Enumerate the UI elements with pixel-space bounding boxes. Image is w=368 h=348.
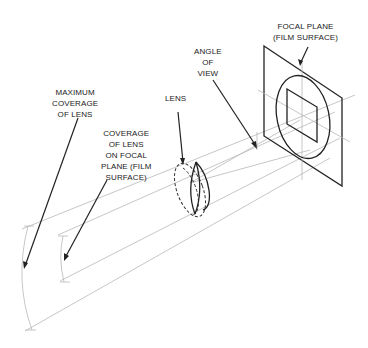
lens-label: LENS	[165, 93, 186, 104]
focal-plane-label-line-2: (FILM SURFACE)	[273, 32, 338, 43]
coverage-on-focal-plane-label-line-1: COVERAGE	[101, 128, 151, 139]
maximum-coverage-arc	[22, 226, 32, 330]
maximum-coverage-label-line-1: MAXIMUM	[52, 87, 98, 98]
maximum-coverage-label-line-3: OF LENS	[52, 109, 98, 120]
angle-of-view-label-line-2: OF	[194, 57, 222, 68]
coverage-on-focal-plane-label-line-4: PLANE (FILM	[101, 161, 151, 172]
angle-of-view-label-line-3: VIEW	[194, 68, 222, 79]
maximum-coverage-label: MAXIMUM COVERAGE OF LENS	[52, 87, 98, 120]
focal-plane-label: FOCAL PLANE (FILM SURFACE)	[273, 21, 338, 43]
focal-plane-label-line-1: FOCAL PLANE	[273, 21, 338, 32]
coverage-on-focal-plane-label-line-2: OF LENS	[101, 139, 151, 150]
lens-label-line-1: LENS	[165, 93, 186, 104]
image-circle	[269, 71, 337, 164]
angle-of-view-label: ANGLE OF VIEW	[194, 46, 222, 79]
focal-plane	[258, 46, 350, 186]
light-rays	[22, 95, 355, 331]
coverage-on-focal-plane-label-line-3: ON FOCAL	[101, 150, 151, 161]
lens-element	[168, 159, 212, 221]
angle-of-view-label-line-1: ANGLE	[194, 46, 222, 57]
coverage-on-focal-plane-label-line-5: SURFACE)	[101, 172, 151, 183]
lens-coverage-diagram	[0, 0, 368, 348]
coverage-on-focal-plane-label: COVERAGE OF LENS ON FOCAL PLANE (FILM SU…	[101, 128, 151, 183]
maximum-coverage-label-line-2: COVERAGE	[52, 98, 98, 109]
focal-plane-coverage-arc	[61, 236, 64, 282]
